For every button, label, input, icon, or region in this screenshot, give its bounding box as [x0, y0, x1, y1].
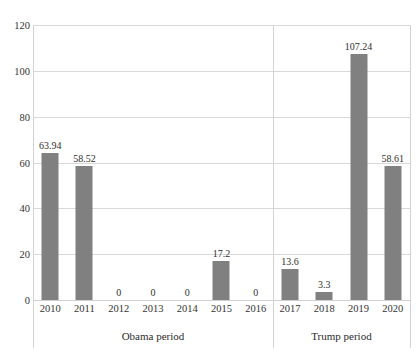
bars-layer: 63.9458.5200017.2013.63.3107.2458.61 [33, 25, 410, 300]
bar-2018[interactable] [316, 292, 333, 300]
bar-value-label: 17.2 [213, 248, 231, 259]
x-tick-label: 2014 [177, 303, 198, 314]
plot-right-boundary [410, 25, 411, 348]
bar-2017[interactable] [282, 269, 299, 300]
x-tick-label: 2010 [40, 303, 61, 314]
bar-slot: 63.94 [33, 25, 67, 300]
bar-2020[interactable] [384, 166, 401, 300]
bar-2015[interactable] [213, 261, 230, 300]
y-tick-label: 100 [14, 65, 30, 76]
x-tick-label: 2011 [74, 303, 95, 314]
bar-slot: 3.3 [307, 25, 341, 300]
x-axis: 2010201120122013201420152016201720182019… [33, 303, 410, 321]
bar-value-label: 107.24 [345, 41, 373, 52]
bar-slot: 0 [136, 25, 170, 300]
bar-slot: 107.24 [341, 25, 375, 300]
y-axis: 020406080100120 [0, 0, 30, 361]
bar-value-label: 58.61 [382, 153, 405, 164]
bar-slot: 17.2 [204, 25, 238, 300]
bar-chart: 020406080100120 63.9458.5200017.2013.63.… [0, 0, 420, 361]
y-tick-label: 60 [20, 157, 31, 168]
bar-slot: 13.6 [273, 25, 307, 300]
bar-slot: 0 [102, 25, 136, 300]
x-tick-label: 2017 [280, 303, 301, 314]
bar-value-label: 3.3 [318, 279, 331, 290]
group-label: Trump period [311, 330, 371, 342]
gridline-0 [33, 300, 410, 301]
group-label: Obama period [122, 330, 185, 342]
bar-slot: 58.61 [376, 25, 410, 300]
x-tick-label: 2018 [314, 303, 335, 314]
x-tick-label: 2020 [382, 303, 403, 314]
bar-2011[interactable] [76, 166, 93, 300]
bar-value-label: 0 [253, 287, 258, 298]
bar-value-label: 58.52 [73, 153, 96, 164]
y-tick-label: 0 [25, 295, 30, 306]
bar-slot: 0 [170, 25, 204, 300]
x-tick-label: 2013 [142, 303, 163, 314]
bar-2010[interactable] [42, 153, 59, 300]
bar-value-label: 13.6 [281, 256, 299, 267]
x-tick-label: 2019 [348, 303, 369, 314]
group-labels: Obama periodTrump period [33, 330, 410, 350]
bar-slot: 58.52 [67, 25, 101, 300]
plot-left-boundary [33, 25, 34, 348]
x-tick-label: 2016 [245, 303, 266, 314]
y-tick-label: 120 [14, 20, 30, 31]
period-divider [273, 25, 274, 348]
x-tick-label: 2015 [211, 303, 232, 314]
y-tick-label: 40 [20, 203, 31, 214]
x-tick-label: 2012 [108, 303, 129, 314]
y-tick-label: 80 [20, 111, 31, 122]
bar-value-label: 0 [116, 287, 121, 298]
bar-value-label: 0 [185, 287, 190, 298]
bar-slot: 0 [239, 25, 273, 300]
bar-value-label: 63.94 [39, 140, 62, 151]
bar-value-label: 0 [150, 287, 155, 298]
y-tick-label: 20 [20, 249, 31, 260]
bar-2019[interactable] [350, 54, 367, 300]
